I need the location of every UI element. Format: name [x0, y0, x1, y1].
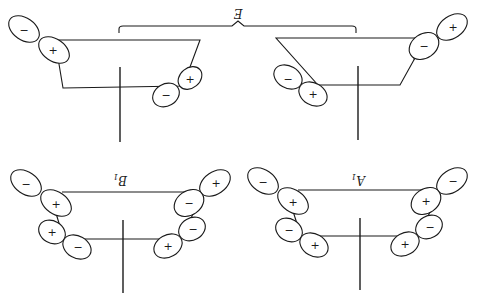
label-a1-main: A — [356, 173, 366, 187]
lobe-sign: − — [161, 89, 170, 102]
lobe-sign: + — [51, 198, 60, 211]
lobe-sign: + — [400, 238, 409, 251]
panel-e-left: − + + − — [4, 10, 207, 142]
label-b1-main: B — [118, 173, 128, 187]
lobe-sign: + — [308, 88, 317, 101]
panel-e-right: + − − + — [270, 8, 473, 140]
lobe-sign: − — [73, 241, 82, 254]
lobe-sign: + — [211, 177, 220, 190]
lobe-sign: + — [310, 239, 319, 252]
lobe-sign: + — [448, 21, 457, 34]
label-a1-sub: 1 — [351, 173, 356, 182]
label-b1-sub: 1 — [113, 173, 118, 182]
lobe-sign: − — [419, 40, 428, 53]
label-a1: A1 — [351, 173, 366, 188]
lobe-sign: + — [185, 73, 194, 86]
lobe-sign: + — [163, 240, 172, 253]
lobe-sign: + — [48, 44, 57, 57]
lobe-sign: − — [184, 197, 193, 210]
lobe-sign: + — [421, 195, 430, 208]
label-b1: B1 — [113, 173, 128, 188]
lobe-sign: − — [448, 175, 457, 188]
orbital-symmetry-diagram: E − + + − + − − + B1 − + — [0, 0, 477, 303]
lobe-sign: − — [284, 224, 293, 237]
lobe-sign: − — [283, 73, 292, 86]
label-e: E — [233, 6, 243, 20]
lobe-sign: − — [425, 221, 434, 234]
lobe-sign: − — [258, 176, 267, 189]
lobe-sign: + — [288, 196, 297, 209]
lobe-sign: − — [188, 223, 197, 236]
e-brace — [119, 21, 356, 33]
lobe-sign: − — [21, 178, 30, 191]
lobe-sign: − — [19, 24, 28, 37]
lobe-sign: + — [47, 226, 56, 239]
